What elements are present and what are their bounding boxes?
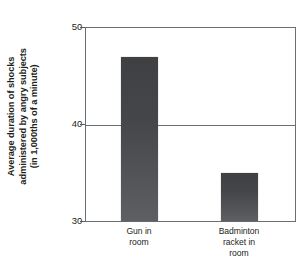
y-axis-title-line-3: (in 1,000ths of a minute)	[29, 48, 41, 185]
bar-gun-in-room[interactable]	[121, 57, 158, 221]
x-axis-category-labels: Gun in room Badminton racket in room	[85, 226, 296, 265]
plot-area	[85, 27, 296, 222]
category-label-gun-line-2: room	[93, 237, 185, 248]
y-tick-label-50: 50	[60, 21, 82, 32]
category-label-badminton-line-3: room	[193, 248, 285, 259]
gridline-40	[86, 125, 295, 126]
y-tick-label-40: 40	[60, 118, 82, 129]
y-axis-title: Average duration of shocks administered …	[0, 0, 46, 232]
category-label-badminton-racket-in-room: Badminton racket in room	[193, 226, 285, 259]
y-axis-title-line-1: Average duration of shocks	[6, 48, 18, 185]
bar-badminton-racket-in-room[interactable]	[221, 173, 258, 221]
bar-chart-figure: Average duration of shocks administered …	[0, 0, 305, 265]
y-axis-title-line-2: administered by angry subjects	[17, 48, 29, 185]
category-label-gun-in-room: Gun in room	[93, 226, 185, 248]
category-label-badminton-line-2: racket in	[193, 237, 285, 248]
y-axis-tick-labels: 50 40 30	[58, 0, 82, 265]
y-tick-label-30: 30	[60, 215, 82, 226]
category-label-gun-line-1: Gun in	[93, 226, 185, 237]
category-label-badminton-line-1: Badminton	[193, 226, 285, 237]
